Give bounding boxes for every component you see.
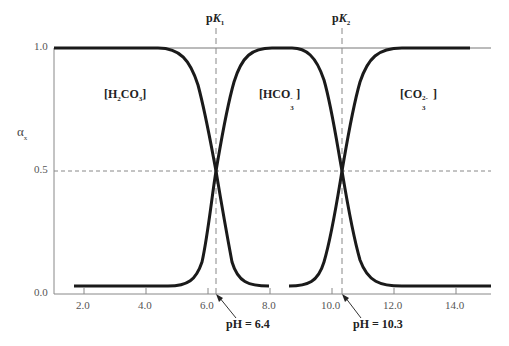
x-tick-14: 14.0: [445, 299, 464, 311]
annotation-ph-6-4: pH = 6.4: [226, 317, 270, 332]
x-tick-12: 12.0: [383, 299, 402, 311]
species-hco3: [HCO-3]: [259, 87, 300, 102]
h2co3-open: [H: [104, 87, 117, 101]
hco3-close: ]: [296, 87, 300, 101]
y-axis-label-alpha: α: [17, 124, 24, 139]
y-tick-0-0: 0.0: [34, 286, 48, 298]
co3-sup: 2-: [422, 94, 428, 102]
species-co3: [CO2-3]: [400, 87, 437, 102]
species-h2co3: [H2CO3]: [104, 87, 146, 103]
h2co3-close: ]: [142, 87, 146, 101]
y-tick-1-0: 1.0: [34, 40, 48, 52]
curve-hco3-rising: [74, 48, 491, 286]
curve-co3: [289, 48, 470, 286]
hco3-open: [HCO: [259, 87, 290, 101]
x-tick-10: 10.0: [321, 299, 340, 311]
arrow-ph-10-3: [342, 294, 361, 318]
co3-open: [CO: [400, 87, 422, 101]
arrow-ph-6-4: [216, 294, 236, 318]
hco3-sub: 3: [290, 104, 294, 112]
y-axis-label: αx: [17, 124, 27, 142]
x-tick-4: 4.0: [138, 299, 152, 311]
pk2-sub: 2: [347, 19, 351, 27]
co3-sub: 3: [422, 104, 426, 112]
pk2-k: K: [339, 11, 347, 25]
pk1-sub: 1: [221, 19, 225, 27]
x-ticks: [84, 288, 456, 294]
pk1-p: p: [206, 11, 213, 25]
y-tick-0-5: 0.5: [34, 163, 48, 175]
pk2-p: p: [332, 11, 339, 25]
x-tick-8: 8.0: [262, 299, 276, 311]
pk1-label: pK1: [206, 11, 224, 27]
hco3-sup: -: [290, 94, 292, 102]
x-tick-2: 2.0: [76, 299, 90, 311]
h2co3-mid: CO: [121, 87, 139, 101]
co3-close: ]: [433, 87, 437, 101]
y-axis-label-sub: x: [24, 134, 28, 142]
curve-h2co3: [54, 48, 269, 286]
annotation-ph-10-3: pH = 10.3: [353, 317, 403, 332]
pk2-label: pK2: [332, 11, 350, 27]
chart-canvas: [0, 0, 509, 346]
x-tick-6: 6.0: [200, 299, 214, 311]
pk1-k: K: [213, 11, 221, 25]
